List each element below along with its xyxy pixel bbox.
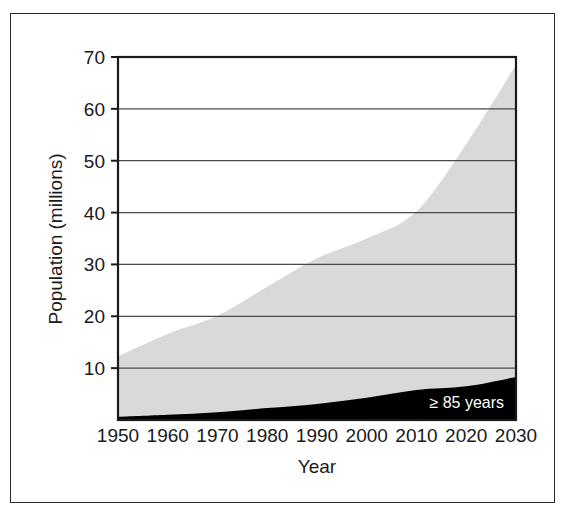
- y-tick-label: 70: [84, 47, 105, 68]
- y-axis-title: Population (millions): [45, 153, 66, 324]
- x-axis-title: Year: [298, 456, 337, 477]
- y-axis-tick-labels: 10203040506070: [84, 47, 105, 379]
- x-tick-label: 1970: [196, 425, 238, 446]
- y-tick-label: 50: [84, 151, 105, 172]
- y-tick-label: 60: [84, 99, 105, 120]
- y-tick-label: 40: [84, 203, 105, 224]
- x-tick-label: 2000: [346, 425, 388, 446]
- series-label-85plus: ≥ 85 years: [429, 394, 504, 411]
- x-tick-label: 1960: [147, 425, 189, 446]
- x-tick-label: 2030: [495, 425, 537, 446]
- figure: 10203040506070 1950196019701980199020002…: [0, 0, 574, 521]
- x-axis-tick-labels: 195019601970198019902000201020202030: [97, 425, 537, 446]
- x-tick-label: 1980: [246, 425, 288, 446]
- x-tick-label: 2020: [445, 425, 487, 446]
- y-tick-label: 10: [84, 358, 105, 379]
- y-tick-label: 30: [84, 254, 105, 275]
- y-tick-label: 20: [84, 306, 105, 327]
- population-area-chart: 10203040506070 1950196019701980199020002…: [0, 0, 574, 521]
- x-tick-label: 1990: [296, 425, 338, 446]
- x-tick-label: 1950: [97, 425, 139, 446]
- x-tick-label: 2010: [395, 425, 437, 446]
